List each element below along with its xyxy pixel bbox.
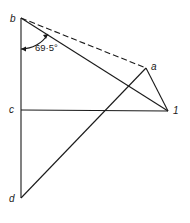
- point-label-1: 1: [173, 106, 179, 116]
- point-label-c: c: [9, 105, 14, 115]
- angle-label: 69·5°: [35, 43, 58, 53]
- point-label-a: a: [151, 62, 157, 72]
- line-b-1: [21, 18, 168, 111]
- line-c-1: [21, 110, 168, 111]
- point-label-b: b: [10, 14, 16, 24]
- geometry-diagram: [0, 0, 190, 223]
- arc-arrowhead-left: [21, 47, 26, 52]
- line-d-a: [21, 68, 146, 198]
- arc-arrowhead-right: [43, 34, 48, 39]
- point-label-d: d: [9, 194, 15, 204]
